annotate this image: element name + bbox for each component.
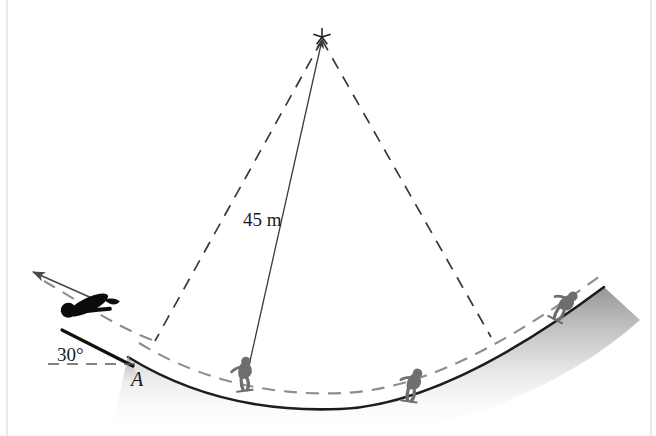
ground-shading bbox=[110, 287, 640, 436]
radius-label: 45 m bbox=[243, 209, 282, 230]
ski-jump-figure: 45 m 30° A bbox=[0, 0, 656, 436]
diagram-canvas: 45 m 30° A bbox=[0, 0, 656, 436]
angle-label: 30° bbox=[57, 344, 84, 365]
radius-line-right bbox=[322, 40, 491, 337]
radius-line-left bbox=[155, 40, 322, 341]
point-a-label: A bbox=[129, 368, 144, 390]
